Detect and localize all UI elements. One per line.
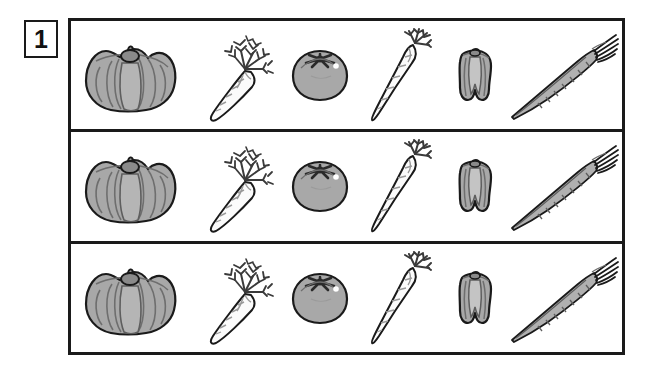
parsnip-icon (365, 246, 439, 350)
vegetable-item-carrot-with-greens: Carrot with greens (189, 244, 281, 352)
parsnip-icon (365, 23, 439, 127)
vegetable-item-leek: Leek (505, 132, 622, 240)
vegetable-item-tomato: Tomato (281, 244, 359, 352)
bell-pepper-side-icon (453, 44, 497, 106)
carrot-with-greens-icon (195, 248, 275, 348)
leek-icon (508, 138, 620, 234)
vegetable-item-bell-pepper-top: Bell pepper (71, 21, 189, 129)
vegetable-row: Row 3 Bell pepper Carrot with greens (71, 241, 622, 352)
tomato-icon (289, 269, 351, 327)
tomato-icon (289, 157, 351, 215)
exercise-number-box: 1 (24, 20, 58, 58)
bell-pepper-side-icon (453, 155, 497, 217)
vegetable-panel: Row 1 Bell pepper Carrot with greens (68, 18, 625, 355)
carrot-with-greens-icon (195, 25, 275, 125)
vegetable-item-leek: Leek (505, 244, 622, 352)
tomato-icon (289, 46, 351, 104)
leek-icon (508, 250, 620, 346)
vegetable-item-bell-pepper-top: Bell pepper (71, 132, 189, 240)
vegetable-item-bell-pepper-top: Bell pepper (71, 244, 189, 352)
vegetable-row: Row 1 Bell pepper Carrot with greens (71, 21, 622, 129)
bell-pepper-side-icon (453, 267, 497, 329)
vegetable-item-bell-pepper-side: Small bell pepper (445, 244, 505, 352)
vegetable-item-tomato: Tomato (281, 21, 359, 129)
vegetable-row: Row 2 Bell pepper Carrot with greens (71, 129, 622, 240)
parsnip-icon (365, 134, 439, 238)
bell-pepper-top-icon (78, 148, 182, 224)
vegetable-item-bell-pepper-side: Small bell pepper (445, 132, 505, 240)
vegetable-item-carrot-with-greens: Carrot with greens (189, 21, 281, 129)
bell-pepper-top-icon (78, 260, 182, 336)
bell-pepper-top-icon (78, 37, 182, 113)
vegetable-item-parsnip: Parsnip (359, 21, 445, 129)
vegetable-item-parsnip: Parsnip (359, 244, 445, 352)
vegetable-item-tomato: Tomato (281, 132, 359, 240)
vegetable-item-parsnip: Parsnip (359, 132, 445, 240)
vegetable-item-bell-pepper-side: Small bell pepper (445, 21, 505, 129)
leek-icon (508, 27, 620, 123)
vegetable-item-leek: Leek (505, 21, 622, 129)
carrot-with-greens-icon (195, 136, 275, 236)
exercise-number: 1 (34, 27, 48, 52)
vegetable-item-carrot-with-greens: Carrot with greens (189, 132, 281, 240)
